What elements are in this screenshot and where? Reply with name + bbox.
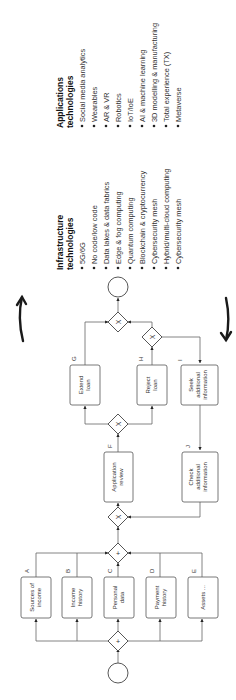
task-c-personal-data: Personal data C [104, 568, 134, 618]
list-item: Hybrid/multi-cloud computing [162, 169, 171, 264]
applications-title: Applications [55, 77, 65, 128]
applications-items: Social media analytics Wearables AR & VR… [78, 23, 183, 127]
svg-text:Application: Application [111, 462, 117, 491]
list-item: Cybersecurity mesh [174, 199, 183, 264]
task-d-payment-history: Payment history D [146, 568, 176, 618]
list-item: AR & VR [102, 92, 111, 122]
svg-text:Sources of: Sources of [29, 583, 35, 612]
svg-text:data: data [119, 591, 125, 603]
svg-text:information: information [202, 370, 208, 400]
start-event [108, 663, 128, 683]
list-item: 5G/6G [78, 242, 87, 264]
list-item: Blockchain & cryptocurrency [138, 170, 147, 264]
svg-text:C: C [107, 568, 113, 573]
end-event [108, 277, 128, 297]
svg-text:Assets ...: Assets ... [200, 585, 206, 610]
parallel-join-gateway: + [108, 543, 128, 563]
exclusive-merge-gateway: X [108, 507, 128, 527]
list-item: Quantum computing [126, 197, 135, 264]
exclusive-reject-gateway: X [142, 327, 162, 347]
x-icon: X [115, 514, 122, 519]
cycle-arrow-down-icon [221, 298, 231, 340]
list-item: Total experience (TX) [162, 52, 171, 122]
svg-text:Income: Income [70, 587, 76, 607]
list-item: Social media analytics [78, 49, 87, 122]
list-item: Edge & fog computing [114, 191, 123, 264]
svg-text:A: A [24, 569, 30, 573]
svg-text:B: B [65, 569, 71, 573]
svg-text:E: E [191, 569, 197, 573]
parallel-split-gateway: + [108, 631, 128, 651]
list-item: Data lakes & data fabrics [102, 182, 111, 264]
svg-text:G: G [71, 356, 77, 361]
svg-text:Extend: Extend [78, 376, 84, 395]
task-i-seek-additional-information: Seek additional information I [177, 359, 218, 405]
plus-icon: + [116, 638, 120, 645]
svg-text:loan: loan [85, 379, 91, 390]
task-f-application-review: Application review F [104, 444, 133, 502]
plus-icon: + [116, 550, 120, 557]
cycle-arrow-up-icon [17, 297, 26, 341]
list-item: Metaverse [174, 87, 183, 122]
svg-text:I: I [177, 359, 183, 361]
x-icon: X [149, 334, 156, 339]
infrastructure-technologies-list: Infrastructure technologies 5G/6G No cod… [55, 169, 183, 270]
list-item: Wearables [90, 87, 99, 122]
list-item: Cybersecurity mesh [150, 199, 159, 264]
task-e-assets: Assets ... E [188, 569, 218, 618]
infrastructure-items: 5G/6G No code/low code Data lakes & data… [78, 169, 183, 270]
svg-text:Check: Check [188, 468, 194, 486]
list-item: No code/low code [90, 205, 99, 264]
svg-text:Personal: Personal [112, 586, 118, 610]
applications-technologies-list: Applications technologies Social media a… [55, 23, 183, 128]
svg-text:income: income [36, 587, 42, 607]
svg-text:D: D [149, 568, 155, 573]
svg-text:information: information [202, 462, 208, 492]
svg-text:F: F [107, 444, 113, 448]
exclusive-decision-gateway: X [108, 414, 128, 434]
svg-text:Seek: Seek [188, 377, 194, 392]
svg-text:history: history [77, 589, 83, 607]
svg-text:H: H [138, 357, 144, 361]
svg-text:review: review [118, 468, 124, 486]
applications-title-2: technologies [65, 75, 75, 128]
list-item: Robotics [114, 93, 123, 122]
x-icon: X [115, 319, 122, 324]
svg-text:additional: additional [195, 464, 201, 490]
exclusive-final-gateway: X [108, 312, 128, 332]
x-icon: X [115, 421, 122, 426]
svg-text:Reject: Reject [145, 376, 151, 393]
list-item: IoT/IoE [126, 98, 135, 122]
infrastructure-title-2: technologies [65, 217, 75, 270]
svg-text:history: history [161, 589, 167, 607]
bpmn-loan-process-diagram: + + X X X X Sources of income A Income h… [0, 0, 236, 700]
svg-text:J: J [185, 445, 191, 448]
infrastructure-title: Infrastructure [55, 214, 65, 270]
list-item: 3D modelling & manufacturing [150, 23, 159, 122]
list-item: AI & machine learning [138, 50, 147, 122]
svg-text:Payment: Payment [154, 585, 160, 609]
svg-text:loan: loan [152, 379, 158, 390]
svg-text:additional: additional [195, 372, 201, 398]
task-j-check-additional-information: Check additional information J [182, 445, 218, 502]
